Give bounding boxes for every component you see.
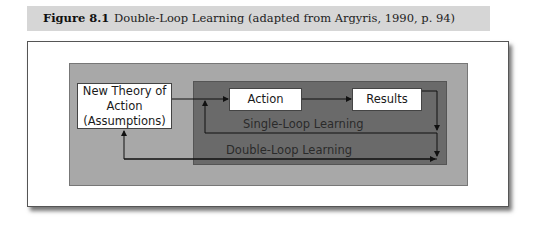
single-loop-arrow: [205, 101, 437, 133]
double-loop-return-arrow: [124, 131, 437, 159]
results-out-line: [422, 91, 437, 130]
connector-arrows: [0, 0, 543, 225]
